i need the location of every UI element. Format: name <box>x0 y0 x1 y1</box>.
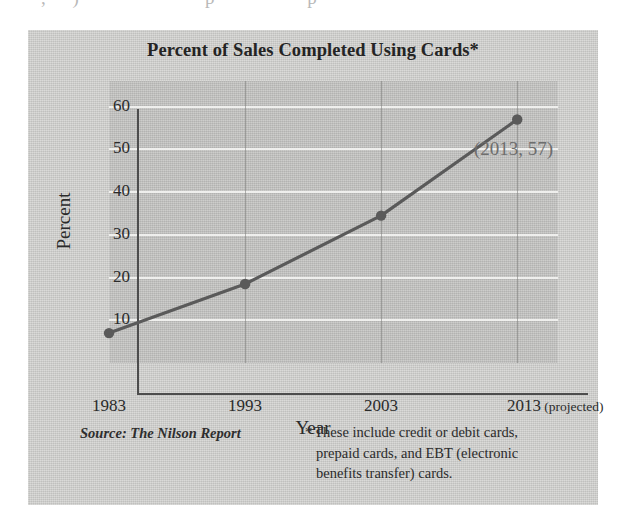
data-point-marker <box>376 210 386 220</box>
footnote-line-1: *These include credit or debit cards, <box>305 422 590 443</box>
series-line <box>109 120 517 334</box>
figure-panel: Percent of Sales Completed Using Cards* … <box>28 30 598 505</box>
page-bleed-text: · , ) · · · p · · p · · <box>0 0 618 26</box>
x-tick-label: 2003 <box>364 396 398 416</box>
x-tick-label: 1993 <box>228 396 262 416</box>
x-tick-suffix: (projected) <box>541 399 604 414</box>
data-point-marker <box>104 328 114 338</box>
x-tick-year: 2003 <box>364 396 398 415</box>
data-point-annotation: (2013, 57) <box>474 138 553 160</box>
x-tick-year: 2013 <box>507 396 541 415</box>
source-note: Source: The Nilson Report <box>80 425 241 442</box>
x-tick-year: 1993 <box>228 396 262 415</box>
bleed-text-line: · , ) · · · p · · p · · <box>8 0 394 8</box>
data-point-marker <box>240 279 250 289</box>
x-tick-label: 1983 <box>92 396 126 416</box>
footnote-line-3: benefits transfer) cards. <box>305 463 590 484</box>
footnote-line-2: prepaid cards, and EBT (electronic <box>305 443 590 464</box>
footnote: *These include credit or debit cards, pr… <box>305 422 590 484</box>
data-point-marker <box>512 114 522 124</box>
footnote-text-1: These include credit or debit cards, <box>314 424 518 440</box>
footnote-asterisk: * <box>305 424 312 440</box>
x-tick-label: 2013 (projected) <box>507 396 604 416</box>
x-tick-year: 1983 <box>92 396 126 415</box>
